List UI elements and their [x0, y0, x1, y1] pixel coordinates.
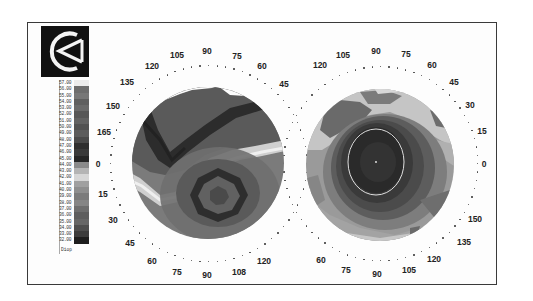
instrument-logo: [41, 26, 89, 77]
angle-label: 90: [371, 46, 380, 56]
angle-tick: [217, 261, 218, 262]
legend-swatch: [74, 237, 89, 243]
angle-label: 60: [147, 256, 156, 266]
angle-tick: [388, 66, 389, 67]
logo-c-triangle-icon: [41, 26, 89, 77]
angle-tick: [303, 188, 304, 189]
angle-label: 105: [336, 50, 350, 60]
angle-tick: [277, 232, 278, 233]
angle-tick: [283, 171, 284, 172]
angle-tick: [306, 154, 307, 155]
angle-tick: [372, 66, 373, 67]
angle-label: 105: [170, 50, 184, 60]
angle-tick: [139, 232, 140, 233]
legend-value: 32.00: [59, 237, 74, 243]
angle-tick: [249, 74, 250, 75]
angle-tick: [284, 146, 285, 147]
angle-tick: [303, 138, 304, 139]
angle-tick: [152, 243, 153, 244]
angle-label: 120: [145, 61, 159, 71]
angle-tick: [167, 74, 168, 75]
angle-tick: [477, 171, 478, 172]
legend-unit: Diop: [59, 247, 89, 252]
angle-label: 60: [316, 255, 325, 265]
angle-label: 150: [106, 101, 120, 111]
angle-tick: [233, 258, 234, 259]
angle-tick: [347, 254, 348, 255]
angle-tick: [288, 107, 289, 108]
angle-tick: [199, 65, 200, 66]
angle-tick: [249, 252, 250, 253]
angle-tick: [128, 219, 129, 220]
angle-tick: [110, 154, 111, 155]
angle-label: 120: [427, 254, 441, 264]
angle-tick: [119, 204, 120, 205]
angle-tick: [277, 94, 278, 95]
angle-tick: [113, 188, 114, 189]
angle-tick: [217, 65, 218, 66]
angle-tick: [301, 219, 302, 220]
angle-tick: [471, 130, 472, 131]
angle-label: 30: [108, 215, 117, 225]
angle-tick: [363, 259, 364, 260]
angle-label: 30: [465, 100, 474, 110]
angle-tick: [264, 243, 265, 244]
angle-tick: [264, 83, 265, 84]
angle-tick: [449, 232, 450, 233]
angle-tick: [110, 172, 111, 173]
angle-tick: [388, 260, 389, 261]
angle-tick: [183, 258, 184, 259]
angle-tick: [442, 89, 443, 90]
angle-tick: [413, 254, 414, 255]
angle-tick: [477, 155, 478, 156]
angle-label: 135: [457, 237, 471, 247]
angle-label: 15: [98, 189, 107, 199]
angle-tick: [113, 138, 114, 139]
diopter-color-scale: 57.0056.0055.0054.0053.0052.0051.0050.00…: [59, 80, 89, 252]
angle-label: 0: [96, 159, 101, 169]
angle-label: 90: [202, 46, 211, 56]
angle-tick: [363, 67, 364, 68]
angle-label: 75: [232, 51, 241, 61]
angle-tick: [449, 94, 450, 95]
angle-tick: [306, 101, 307, 102]
angle-tick: [311, 232, 312, 233]
angle-tick: [318, 89, 319, 90]
angle-label: 45: [125, 238, 134, 248]
angle-label: 15: [477, 126, 486, 136]
angle-label: 75: [341, 265, 350, 275]
angle-tick: [288, 219, 289, 220]
angle-tick: [301, 107, 302, 108]
angle-tick: [372, 260, 373, 261]
angle-tick: [283, 155, 284, 156]
angle-tick: [471, 196, 472, 197]
angle-label: 45: [279, 79, 288, 89]
legend-entry: 32.00: [59, 237, 89, 243]
angle-tick: [311, 94, 312, 95]
angle-tick: [476, 146, 477, 147]
angle-tick: [454, 101, 455, 102]
angle-label: 75: [172, 267, 181, 277]
angle-tick: [119, 122, 120, 123]
angle-label: 135: [120, 77, 134, 87]
angle-tick: [436, 84, 437, 85]
angle-tick: [199, 261, 200, 262]
angle-label: 90: [372, 269, 381, 279]
angle-tick: [459, 107, 460, 108]
angle-tick: [454, 225, 455, 226]
angle-tick: [442, 237, 443, 238]
angle-tick: [233, 68, 234, 69]
angle-tick: [318, 237, 319, 238]
angle-label: 120: [313, 60, 327, 70]
angle-label: 105: [402, 265, 416, 275]
angle-label: 0: [482, 159, 487, 169]
angle-tick: [183, 68, 184, 69]
angle-tick: [297, 204, 298, 205]
angle-label: 75: [401, 49, 410, 59]
angle-label: 45: [449, 77, 458, 87]
angle-tick: [306, 172, 307, 173]
angle-tick: [324, 242, 325, 243]
angle-label: 60: [257, 61, 266, 71]
angle-tick: [436, 242, 437, 243]
angle-label: 60: [427, 60, 436, 70]
